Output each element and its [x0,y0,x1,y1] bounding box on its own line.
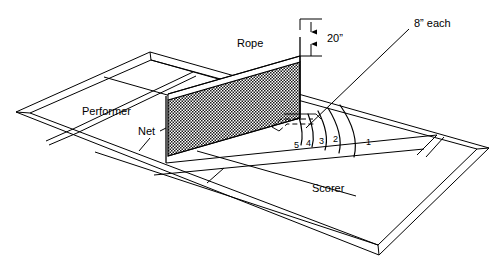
diagram-canvas: 20” 8” each 5 4 3 2 1 [0,0,501,265]
rope-label: Rope [237,37,263,49]
scoring-label-5: 5 [294,140,299,150]
scorer-label: Scorer [312,182,345,194]
net-height-label: 20” [327,32,343,44]
net-label: Net [138,125,155,137]
scoring-label-4: 4 [306,138,311,148]
scoring-label-3: 3 [319,136,324,146]
scoring-label-1: 1 [366,137,371,147]
performer-label: Performer [82,105,131,117]
zone-width-label: 8” each [414,17,451,29]
scoring-label-2: 2 [333,134,338,144]
court-diagram-svg: 20” 8” each 5 4 3 2 1 [0,0,501,265]
net-height-dimension: 20” [300,19,343,56]
court-end-line-left-inner [49,133,77,145]
court-end-line-left-outer [46,129,73,141]
